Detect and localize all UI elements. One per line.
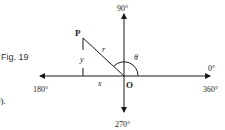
label-360: 360° [203, 85, 218, 94]
label-0: 0° [208, 64, 215, 73]
angle-arc [114, 62, 138, 76]
label-r: r [102, 45, 106, 54]
figure-caption: Fig. 19 [1, 52, 29, 62]
label-origin: O [126, 80, 133, 90]
label-270: 270° [115, 120, 130, 129]
fragment-text: 9). [0, 96, 6, 106]
label-y: y [79, 55, 84, 64]
label-180: 180° [33, 85, 48, 94]
label-90: 90° [117, 4, 128, 13]
polar-coordinates-diagram: 90° 270° 180° 0° 360° P O r θ x y Fig. 1… [0, 0, 225, 130]
label-point-p: P [75, 28, 81, 38]
label-theta: θ [134, 53, 138, 62]
label-x: x [97, 79, 102, 88]
radius-line [83, 38, 124, 76]
